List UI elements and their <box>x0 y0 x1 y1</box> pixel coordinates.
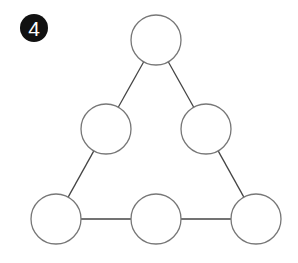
edge-top-mid-right <box>168 62 194 107</box>
nodes <box>31 15 281 244</box>
circle-bottom-left <box>31 194 81 244</box>
circle-top <box>131 15 181 65</box>
problem-number-badge: 4 <box>20 14 48 42</box>
circle-bottom-right <box>231 194 281 244</box>
edge-top-mid-left <box>118 62 144 107</box>
edge-mid-left-bottom-left <box>68 151 94 197</box>
circle-bottom-middle <box>131 194 181 244</box>
circle-mid-left <box>81 104 131 154</box>
circle-mid-right <box>181 104 231 154</box>
triangle-diagram <box>0 0 298 263</box>
edge-mid-right-bottom-right <box>218 151 244 197</box>
problem-number: 4 <box>28 18 40 39</box>
